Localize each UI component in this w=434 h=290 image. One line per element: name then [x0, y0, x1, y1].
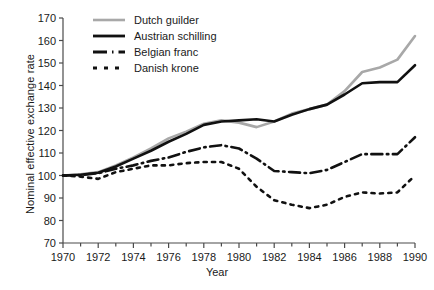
x-axis-tick-label: 1984 [297, 251, 321, 263]
y-axis-tick-label: 150 [38, 57, 56, 69]
x-axis-tick-label: 1990 [403, 251, 427, 263]
y-axis-tick-label: 140 [38, 80, 56, 92]
x-axis-tick-label: 1974 [121, 251, 145, 263]
x-axis-tick-label: 1982 [262, 251, 286, 263]
y-axis-tick-label: 170 [38, 12, 56, 24]
x-axis-tick-label: 1988 [368, 251, 392, 263]
x-axis-tick-label: 1986 [332, 251, 356, 263]
y-axis-tick-label: 160 [38, 35, 56, 47]
y-axis-tick-label: 80 [44, 215, 56, 227]
y-axis-tick-label: 120 [38, 125, 56, 137]
chart-container: Nominal effective exchange rate Year Dut… [0, 0, 434, 290]
x-axis-tick-label: 1976 [156, 251, 180, 263]
plot-area: 7080901001101201301401501601701970197219… [0, 0, 434, 290]
x-axis-tick-label: 1970 [51, 251, 75, 263]
y-axis-tick-label: 90 [44, 192, 56, 204]
x-axis-tick-label: 1972 [86, 251, 110, 263]
y-axis-tick-label: 100 [38, 170, 56, 182]
x-axis-tick-label: 1978 [192, 251, 216, 263]
y-axis-tick-label: 70 [44, 237, 56, 249]
y-axis-tick-label: 130 [38, 102, 56, 114]
x-axis-tick-label: 1980 [227, 251, 251, 263]
y-axis-tick-label: 110 [38, 147, 56, 159]
series-line-austrian-schilling [63, 65, 415, 175]
